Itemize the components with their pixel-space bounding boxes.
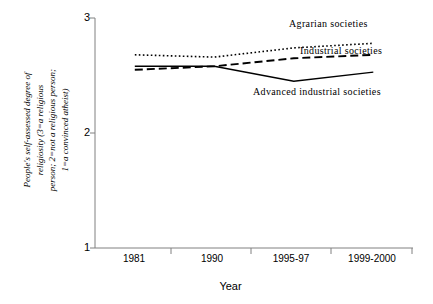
series-label-agrarian-societies: Agrarian societies bbox=[289, 18, 368, 29]
y-tick-label-1: 1 bbox=[68, 241, 90, 253]
x-tick-label-1990: 1990 bbox=[185, 253, 239, 264]
y-axis-title: People's self-assessed degree of religio… bbox=[21, 20, 71, 240]
series-label-advanced-industrial-societies: Advanced industrial societies bbox=[253, 86, 381, 97]
y-tick-label-2: 2 bbox=[68, 126, 90, 138]
x-axis-title: Year bbox=[0, 280, 433, 292]
x-tick-label-1981: 1981 bbox=[107, 253, 161, 264]
y-tick-label-3: 3 bbox=[68, 11, 90, 23]
series-line-advanced-industrial-societies bbox=[135, 66, 373, 81]
series-label-industrial-societies: Industrial societies bbox=[300, 45, 382, 56]
x-tick-label-1999-2000: 1999-2000 bbox=[337, 253, 407, 264]
x-tick-label-1995-97: 1995-97 bbox=[262, 253, 320, 264]
chart-container: People's self-assessed degree of religio… bbox=[0, 0, 433, 304]
series-line-industrial-societies bbox=[135, 55, 373, 70]
